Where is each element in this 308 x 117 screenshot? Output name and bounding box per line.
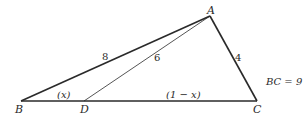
diagram-svg: A B D C 8 6 4 (x) (1 − x) BC = 9	[0, 0, 308, 117]
side-AC	[210, 16, 257, 101]
length-label-AB: 8	[102, 51, 108, 62]
vertex-label-D: D	[79, 103, 89, 116]
vertex-label-B: B	[14, 103, 23, 116]
segment-label-BD: (x)	[57, 89, 71, 100]
triangle-diagram: A B D C 8 6 4 (x) (1 − x) BC = 9	[0, 0, 308, 117]
length-label-AC: 4	[235, 52, 241, 63]
length-label-AD: 6	[154, 52, 160, 63]
segment-label-DC: (1 − x)	[166, 89, 201, 100]
vertex-label-C: C	[253, 103, 262, 116]
vertex-label-A: A	[206, 4, 215, 17]
bc-annotation: BC = 9	[265, 76, 303, 87]
